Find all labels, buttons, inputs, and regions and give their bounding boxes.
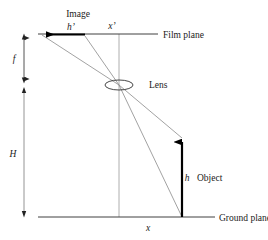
ray-lower	[85, 36, 182, 217]
image-label: Image	[66, 9, 90, 19]
height-label: H	[9, 149, 18, 159]
optics-diagram: Image h’ x’ Film plane Lens f H h Object…	[0, 0, 268, 240]
lens-label: Lens	[149, 80, 168, 90]
h-prime-label: h’	[67, 22, 75, 32]
height-arrowhead-bottom	[22, 211, 26, 218]
object-label: Object	[197, 173, 223, 183]
optics-diagram-canvas: Image h’ x’ Film plane Lens f H h Object…	[0, 0, 268, 240]
object-height-label: h	[185, 173, 190, 183]
focal-length-arrowhead-bottom	[22, 78, 26, 84]
ground-plane-label: Ground plane	[219, 213, 268, 223]
focal-length-label: f	[13, 54, 17, 64]
focal-length-arrowhead-top	[22, 34, 26, 40]
x-prime-label: x’	[107, 21, 115, 31]
film-plane-label: Film plane	[163, 30, 204, 40]
x-label: x	[145, 223, 151, 233]
height-arrowhead-top	[22, 87, 26, 93]
